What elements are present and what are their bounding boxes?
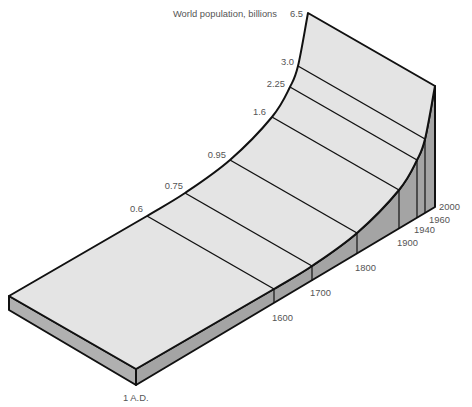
value-label-2.25: 2.25 [267, 78, 285, 89]
year-label-1600: 1600 [272, 312, 293, 323]
year-label-1900: 1900 [397, 237, 418, 248]
year-label-2000: 2000 [439, 201, 460, 212]
population-figure: World population, billions 6.5 3.0 2.25 … [0, 0, 472, 407]
value-label-0.75: 0.75 [165, 180, 183, 191]
year-label-1960: 1960 [429, 214, 450, 225]
year-label-1ad: 1 A.D. [123, 392, 149, 403]
value-label-0.6: 0.6 [130, 203, 143, 214]
value-label-0.95: 0.95 [208, 149, 226, 160]
value-label-1.6: 1.6 [253, 106, 266, 117]
value-label-3.0: 3.0 [281, 56, 294, 67]
population-3d-chart: World population, billions 6.5 3.0 2.25 … [0, 0, 472, 407]
year-label-1700: 1700 [310, 287, 331, 298]
axis-title: World population, billions [173, 8, 277, 19]
value-label-6.5: 6.5 [290, 8, 303, 19]
year-label-1940: 1940 [414, 224, 435, 235]
ribbon-top-surface [9, 13, 435, 369]
year-label-1800: 1800 [355, 262, 376, 273]
